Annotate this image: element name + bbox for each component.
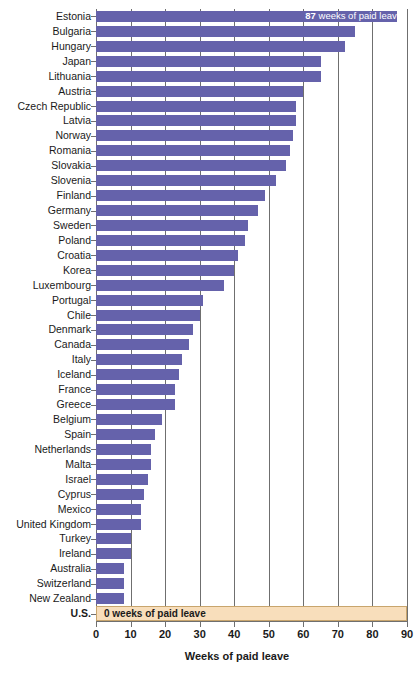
bar bbox=[96, 504, 141, 515]
bar bbox=[96, 41, 345, 52]
bar-annotation-label: 87 weeks of paid leave bbox=[301, 10, 406, 22]
bar bbox=[96, 369, 179, 380]
bar-annotation-label: 0 weeks of paid leave bbox=[104, 606, 206, 621]
category-label-ireland: Ireland bbox=[59, 546, 91, 561]
bar bbox=[96, 324, 193, 335]
bar bbox=[96, 101, 296, 112]
bar-row bbox=[96, 412, 407, 427]
category-label-germany: Germany bbox=[48, 203, 91, 218]
category-label-poland: Poland bbox=[58, 233, 91, 248]
x-axis-tick-labels: 0102030405060708090 bbox=[96, 628, 408, 644]
bar-row bbox=[96, 502, 407, 517]
category-label-czech-republic: Czech Republic bbox=[17, 99, 91, 114]
bar-row bbox=[96, 69, 407, 84]
x-tick-80 bbox=[372, 621, 373, 627]
x-tick-label-80: 80 bbox=[366, 628, 378, 640]
bar-row bbox=[96, 203, 407, 218]
bar bbox=[96, 519, 141, 530]
category-label-iceland: Iceland bbox=[57, 367, 91, 382]
bar bbox=[96, 145, 290, 156]
bar bbox=[96, 175, 276, 186]
bar-row bbox=[96, 113, 407, 128]
bar-row bbox=[96, 233, 407, 248]
category-label-croatia: Croatia bbox=[57, 248, 91, 263]
category-label-united-kingdom: United Kingdom bbox=[16, 517, 91, 532]
bar bbox=[96, 310, 200, 321]
bar-row bbox=[96, 188, 407, 203]
category-label-luxembourg: Luxembourg bbox=[33, 278, 91, 293]
bar-row bbox=[96, 54, 407, 69]
x-tick-label-40: 40 bbox=[228, 628, 240, 640]
category-label-canada: Canada bbox=[54, 337, 91, 352]
bar-row bbox=[96, 531, 407, 546]
category-label-denmark: Denmark bbox=[48, 322, 91, 337]
bar-row bbox=[96, 248, 407, 263]
bar bbox=[96, 115, 296, 126]
category-label-mexico: Mexico bbox=[58, 502, 91, 517]
gridline-90 bbox=[407, 9, 408, 621]
bar-row bbox=[96, 308, 407, 323]
category-label-bulgaria: Bulgaria bbox=[52, 24, 91, 39]
plot-area: 87 weeks of paid leave0 weeks of paid le… bbox=[96, 9, 407, 621]
bar-row bbox=[96, 143, 407, 158]
bar bbox=[96, 190, 265, 201]
x-tick-20 bbox=[165, 621, 166, 627]
bar bbox=[96, 339, 189, 350]
bar bbox=[96, 399, 175, 410]
category-label-estonia: Estonia bbox=[56, 9, 91, 24]
bar bbox=[96, 533, 131, 544]
bar bbox=[96, 26, 355, 37]
bar-row bbox=[96, 218, 407, 233]
category-label-greece: Greece bbox=[57, 397, 91, 412]
bar-row: 87 weeks of paid leave bbox=[96, 9, 407, 24]
bar bbox=[96, 235, 245, 246]
category-label-australia: Australia bbox=[50, 561, 91, 576]
bar bbox=[96, 71, 321, 82]
category-label-u-s: U.S. bbox=[71, 606, 91, 621]
category-axis-labels: EstoniaBulgariaHungaryJapanLithuaniaAust… bbox=[0, 9, 91, 621]
category-label-spain: Spain bbox=[64, 427, 91, 442]
category-label-latvia: Latvia bbox=[63, 113, 91, 128]
bar bbox=[96, 250, 238, 261]
x-tick-60 bbox=[303, 621, 304, 627]
bar bbox=[96, 489, 144, 500]
bar-row: 0 weeks of paid leave bbox=[96, 606, 407, 621]
x-tick-70 bbox=[338, 621, 339, 627]
category-label-norway: Norway bbox=[55, 128, 91, 143]
bar bbox=[96, 354, 182, 365]
bar-row bbox=[96, 322, 407, 337]
category-label-hungary: Hungary bbox=[51, 39, 91, 54]
category-label-chile: Chile bbox=[67, 308, 91, 323]
category-label-austria: Austria bbox=[58, 84, 91, 99]
bar bbox=[96, 593, 124, 604]
bar bbox=[96, 160, 286, 171]
bar bbox=[96, 205, 258, 216]
category-label-slovenia: Slovenia bbox=[51, 173, 91, 188]
bar-rows: 87 weeks of paid leave0 weeks of paid le… bbox=[96, 9, 407, 621]
bar bbox=[96, 280, 224, 291]
category-label-japan: Japan bbox=[62, 54, 91, 69]
bar-row bbox=[96, 382, 407, 397]
bar-row bbox=[96, 352, 407, 367]
x-tick-label-90: 90 bbox=[401, 628, 413, 640]
bar-row bbox=[96, 337, 407, 352]
bar-row bbox=[96, 24, 407, 39]
bar-row bbox=[96, 367, 407, 382]
category-label-sweden: Sweden bbox=[53, 218, 91, 233]
x-tick-label-30: 30 bbox=[194, 628, 206, 640]
bar bbox=[96, 130, 293, 141]
bar bbox=[96, 414, 162, 425]
bar bbox=[96, 429, 155, 440]
bar-row bbox=[96, 293, 407, 308]
bar-row bbox=[96, 517, 407, 532]
bar-row bbox=[96, 173, 407, 188]
bar bbox=[96, 220, 248, 231]
bar-row bbox=[96, 442, 407, 457]
bar-row bbox=[96, 472, 407, 487]
x-tick-label-70: 70 bbox=[332, 628, 344, 640]
bar-row bbox=[96, 561, 407, 576]
bar bbox=[96, 265, 234, 276]
x-tick-50 bbox=[269, 621, 270, 627]
bar-row bbox=[96, 39, 407, 54]
x-tick-30 bbox=[200, 621, 201, 627]
